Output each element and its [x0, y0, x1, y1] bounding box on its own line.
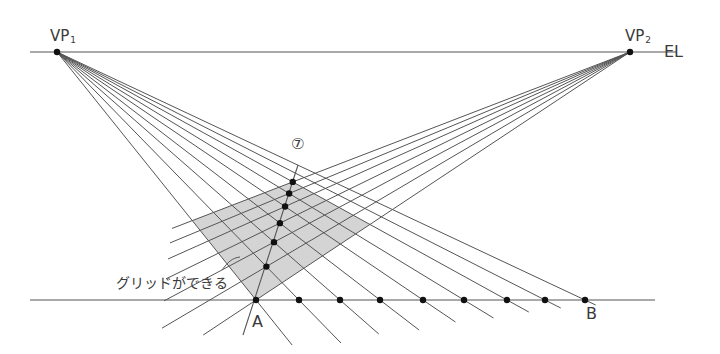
vp2-line — [166, 52, 630, 279]
ground-measure-dot — [377, 297, 383, 303]
diagonal-intersection-dot — [282, 203, 288, 209]
vp2-label: VP2 — [625, 29, 651, 44]
diagonal-intersection-dot — [263, 263, 269, 269]
vp2-line — [162, 52, 630, 328]
diagonal-intersection-dot — [271, 239, 277, 245]
diagonal-intersection-dot — [290, 179, 296, 185]
vp1-label: VP1 — [50, 29, 76, 44]
point-b-dot — [582, 297, 588, 303]
ground-measure-dot — [420, 297, 426, 303]
vp1-line — [57, 52, 419, 330]
ground-measure-dot — [542, 297, 548, 303]
vp1-line — [57, 52, 379, 334]
perspective-diagram — [0, 0, 720, 354]
step-number-label: ⑦ — [291, 137, 304, 152]
vp2-line — [164, 52, 630, 301]
point-a-dot — [253, 297, 259, 303]
eye-level-label: EL — [664, 44, 683, 60]
ground-measure-dot — [296, 297, 302, 303]
ground-measure-dot — [504, 297, 510, 303]
vp2-dot — [627, 49, 633, 55]
construction-lines — [30, 52, 676, 345]
point-b-label: B — [586, 306, 597, 322]
grid-note-label: グリッドができる — [116, 276, 228, 290]
vp1-dot — [54, 49, 60, 55]
ground-measure-dot — [461, 297, 467, 303]
diagonal-intersection-dot — [286, 190, 292, 196]
vp2-line — [172, 52, 630, 228]
point-a-label: A — [252, 314, 263, 330]
vp1-line — [57, 52, 561, 308]
vp2-line — [168, 52, 630, 259]
vp2-line — [170, 52, 630, 243]
diagonal-intersection-dot — [277, 220, 283, 226]
ground-measure-dot — [337, 297, 343, 303]
